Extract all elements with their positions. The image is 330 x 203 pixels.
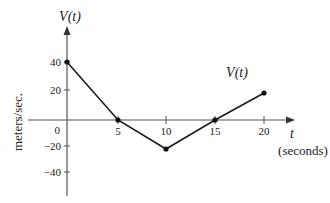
data-point-t20: [261, 90, 266, 95]
y-tick-label-40: 40: [50, 56, 62, 68]
y-axis-title: V(t): [59, 9, 81, 25]
data-point-t5: [115, 117, 120, 122]
y-tick-label-neg20: −20: [44, 140, 62, 152]
velocity-chart: 40 20 0 −20 −40 5 10 15 20 V(t) t (secon…: [0, 0, 330, 203]
curve-label: V(t): [226, 65, 248, 81]
x-tick-label-20: 20: [259, 125, 271, 137]
x-axis-arrow-icon: [286, 117, 295, 124]
data-point-t15: [212, 117, 217, 122]
data-point-t0: [64, 59, 69, 64]
x-axis-units: (seconds): [278, 143, 328, 158]
x-tick-label-15: 15: [210, 125, 222, 137]
data-point-t10: [163, 146, 168, 151]
x-axis-variable: t: [290, 126, 295, 141]
y-tick-label-20: 20: [50, 84, 62, 96]
origin-label: 0: [55, 124, 61, 136]
x-tick-label-10: 10: [161, 125, 173, 137]
y-tick-label-neg40: −40: [44, 166, 62, 178]
x-tick-label-5: 5: [115, 125, 121, 137]
y-axis-arrow-icon: [64, 26, 71, 35]
y-axis-units: meters/sec.: [10, 93, 25, 151]
